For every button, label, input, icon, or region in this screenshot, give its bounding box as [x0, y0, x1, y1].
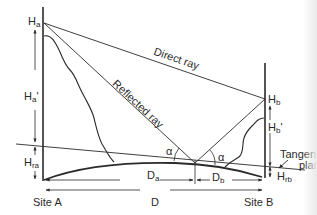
label-alpha-left: α: [166, 146, 172, 157]
label-db: Db: [212, 172, 224, 185]
label-hb: Hb: [268, 94, 280, 107]
label-hrb: Hrb: [277, 171, 292, 184]
tangent-plane-pointer: [279, 160, 288, 168]
tangent-plane-line: [16, 144, 305, 170]
terrain-profile-a: [44, 36, 114, 162]
label-da: Da: [147, 170, 159, 183]
alpha-arc-right: [210, 150, 215, 165]
label-hra: Hra: [24, 157, 39, 170]
label-d: D: [151, 197, 159, 208]
terrain-profile-b: [225, 118, 264, 167]
label-ha: Ha: [28, 16, 40, 29]
direct-ray-line: [44, 23, 265, 99]
page-edge-shading: [303, 0, 317, 215]
reflected-ray-line: [44, 23, 265, 163]
label-site-a: Site A: [33, 197, 62, 208]
label-hb-prime: Hb': [268, 122, 283, 135]
alpha-arc-left: [174, 148, 179, 161]
label-alpha-right: α: [218, 152, 224, 163]
label-ha-prime: Ha': [24, 91, 39, 104]
label-site-b: Site B: [244, 197, 273, 208]
